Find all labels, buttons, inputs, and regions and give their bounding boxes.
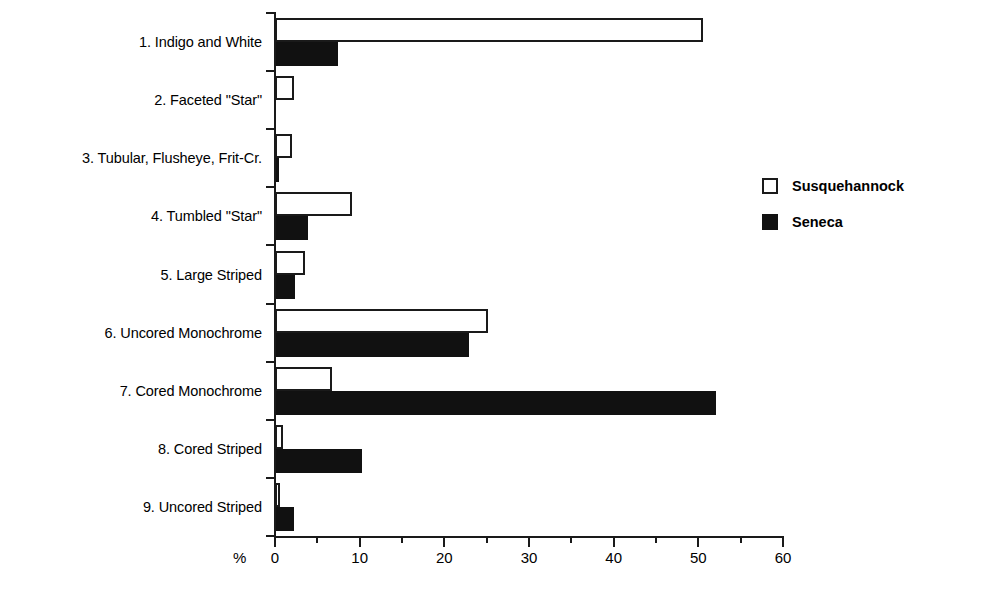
x-axis-tick-minor bbox=[401, 538, 403, 543]
legend-item: Susquehannock bbox=[762, 168, 904, 204]
y-axis-tick bbox=[266, 419, 275, 421]
bar-susquehannock bbox=[275, 134, 292, 158]
bar-susquehannock bbox=[275, 18, 703, 42]
category-label: 1. Indigo and White bbox=[139, 35, 262, 50]
x-axis-tick-minor bbox=[655, 538, 657, 543]
bar-susquehannock bbox=[275, 309, 488, 333]
legend-label: Susquehannock bbox=[792, 179, 904, 194]
category-label: 9. Uncored Striped bbox=[143, 500, 262, 515]
category-label: 2. Faceted "Star" bbox=[154, 93, 262, 108]
y-axis-tick bbox=[266, 361, 275, 363]
bar-chart: 1. Indigo and White2. Faceted "Star"3. T… bbox=[0, 0, 981, 596]
bar-susquehannock bbox=[275, 192, 352, 216]
category-label: 8. Cored Striped bbox=[158, 442, 262, 457]
bar-seneca bbox=[275, 42, 338, 66]
bar-seneca bbox=[275, 391, 716, 415]
y-axis-line bbox=[274, 12, 276, 538]
x-axis-tick-label: 50 bbox=[678, 550, 718, 565]
x-axis-tick-label: 60 bbox=[763, 550, 803, 565]
y-axis-tick bbox=[266, 303, 275, 305]
legend-label: Seneca bbox=[792, 215, 843, 230]
y-axis-tick bbox=[266, 477, 275, 479]
x-axis-tick-minor bbox=[316, 538, 318, 543]
legend-item: Seneca bbox=[762, 204, 904, 240]
x-axis-tick-label: 0 bbox=[255, 550, 295, 565]
bar-susquehannock bbox=[275, 425, 283, 449]
category-label: 3. Tubular, Flusheye, Frit-Cr. bbox=[82, 151, 262, 166]
x-axis-tick-major bbox=[274, 538, 276, 547]
bar-seneca bbox=[275, 216, 308, 240]
x-axis-tick-major bbox=[613, 538, 615, 547]
y-axis-tick bbox=[266, 12, 275, 14]
bar-susquehannock bbox=[275, 76, 294, 100]
y-axis-tick bbox=[266, 535, 275, 537]
x-axis-tick-label: 20 bbox=[424, 550, 464, 565]
x-axis-tick-minor bbox=[486, 538, 488, 543]
bar-seneca bbox=[275, 449, 362, 473]
y-axis-tick bbox=[266, 244, 275, 246]
x-axis-tick-label: 30 bbox=[509, 550, 549, 565]
bar-seneca bbox=[275, 333, 469, 357]
bar-seneca bbox=[275, 507, 294, 531]
x-axis-tick-major bbox=[443, 538, 445, 547]
category-label: 7. Cored Monochrome bbox=[120, 384, 262, 399]
x-axis-tick-major bbox=[697, 538, 699, 547]
chart-legend: SusquehannockSeneca bbox=[762, 168, 904, 240]
bar-susquehannock bbox=[275, 367, 332, 391]
x-axis-tick-label: 10 bbox=[340, 550, 380, 565]
x-axis-tick-major bbox=[528, 538, 530, 547]
bar-susquehannock bbox=[275, 251, 305, 275]
x-axis-tick-minor bbox=[740, 538, 742, 543]
x-axis-unit-label: % bbox=[233, 550, 246, 565]
x-axis-tick-label: 40 bbox=[594, 550, 634, 565]
y-axis-tick bbox=[266, 70, 275, 72]
category-label: 5. Large Striped bbox=[160, 268, 262, 283]
y-axis-tick bbox=[266, 128, 275, 130]
hollow-square-icon bbox=[762, 178, 778, 194]
filled-square-icon bbox=[762, 214, 778, 230]
x-axis-tick-major bbox=[359, 538, 361, 547]
x-axis-tick-minor bbox=[570, 538, 572, 543]
x-axis-tick-major bbox=[782, 538, 784, 547]
category-label: 4. Tumbled "Star" bbox=[151, 209, 262, 224]
category-label: 6. Uncored Monochrome bbox=[105, 326, 262, 341]
bar-seneca bbox=[275, 275, 295, 299]
y-axis-tick bbox=[266, 186, 275, 188]
